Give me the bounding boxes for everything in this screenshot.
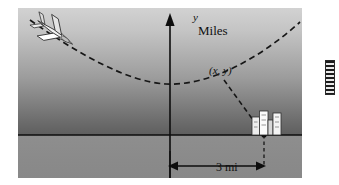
y-axis-label: y [193,12,198,23]
diagram-vector-layer [18,8,302,178]
buildings-icon [252,111,281,135]
figure-panel: y Miles x (x, y) 3 mi [18,8,302,178]
page-edge-marker [325,60,335,95]
flight-path-parabola [30,20,300,84]
drop-line [261,132,266,166]
distance-dimension-label: 3 mi [216,161,238,173]
point-coordinate-label: (x, y) [209,65,232,76]
y-axis-unit-label: Miles [198,24,228,37]
